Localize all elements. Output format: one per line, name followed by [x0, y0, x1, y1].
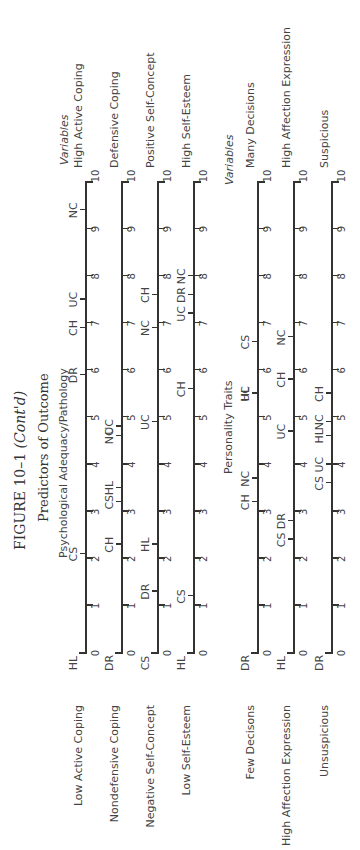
variables-header-1: Variables: [58, 115, 71, 165]
scale-tick-label: 9: [298, 226, 309, 232]
scale-tick-label: 1: [90, 603, 101, 609]
scale-tick-label: 2: [126, 556, 137, 562]
data-point-mark: [80, 553, 86, 555]
scale-tick-label: 10: [126, 170, 137, 183]
scale-end-cap: [187, 652, 195, 654]
data-point-code: HL: [239, 387, 252, 401]
data-point-mark: [326, 463, 332, 465]
scale-tick-label: 8: [336, 273, 347, 279]
scale-left-label: Unsuspicious: [318, 705, 331, 777]
data-point-mark: [288, 378, 294, 380]
scale-tick-label: 1: [336, 603, 347, 609]
data-point-mark: [80, 298, 86, 300]
scale-tick-label: 3: [126, 509, 137, 515]
figure-canvas: FIGURE 10–1 (Cont'd) Predictors of Outco…: [0, 0, 360, 850]
data-point-mark: [116, 543, 122, 545]
scale-tick-label: 4: [126, 461, 137, 467]
data-point-code: DR: [239, 655, 252, 671]
scale-tick-label: 7: [298, 320, 309, 326]
scale-tick-label: 10: [198, 170, 209, 183]
scale-tick-label: 2: [298, 556, 309, 562]
data-point-code: DR: [275, 513, 288, 529]
scale-axis-line: [257, 182, 259, 653]
data-point-code: NC: [175, 268, 188, 284]
data-point-code: NC: [313, 414, 326, 430]
scale-right-label: Many Decisions: [244, 82, 257, 168]
scale-left-label: Nondefensive Coping: [108, 705, 121, 822]
scale-tick-label: 1: [298, 603, 309, 609]
variables-header-2: Variables: [223, 135, 236, 185]
scale-tick-label: 6: [126, 367, 137, 373]
scale-tick-label: 1: [162, 603, 173, 609]
scale-axis-line: [331, 182, 333, 653]
scale-right-label: High Affection Expression: [280, 27, 293, 168]
data-point-code: NC: [239, 471, 252, 487]
data-point-code: NC: [139, 320, 152, 336]
data-point-code: UC: [103, 419, 116, 435]
data-point-code: CS: [275, 533, 288, 548]
scale-tick-label: 6: [262, 367, 273, 373]
scale-tick-label: 4: [336, 461, 347, 467]
data-point-mark: [152, 590, 158, 592]
scale-left-label: High Affection Expression: [280, 705, 293, 846]
scale-end-cap: [115, 652, 123, 654]
data-point-mark: [326, 421, 332, 423]
data-point-code: UC: [275, 424, 288, 440]
scale-tick-label: 9: [262, 226, 273, 232]
scale-tick-label: 8: [262, 273, 273, 279]
scale-tick-label: 0: [126, 650, 137, 656]
scale-tick-label: 2: [262, 556, 273, 562]
scale-tick-label: 5: [298, 414, 309, 420]
scale-tick-label: 7: [198, 320, 209, 326]
scale-tick-label: 5: [336, 414, 347, 420]
scale-tick-label: 8: [298, 273, 309, 279]
scale-tick-label: 9: [90, 226, 101, 232]
scale-axis-line: [157, 182, 159, 653]
scale-tick-label: 8: [90, 273, 101, 279]
scale-tick-label: 10: [336, 170, 347, 183]
scale-right-label: High Self-Esteem: [180, 74, 193, 168]
scale-tick-label: 4: [90, 461, 101, 467]
scale-tick-label: 6: [162, 367, 173, 373]
data-point-code: CH: [139, 287, 152, 303]
data-point-code: CS: [67, 547, 80, 562]
scale-tick-label: 7: [262, 320, 273, 326]
scale-tick-label: 7: [126, 320, 137, 326]
scale-tick-label: 9: [198, 226, 209, 232]
scale-tick-label: 0: [198, 650, 209, 656]
scale-right-label: High Active Coping: [72, 63, 85, 168]
figure-title-main: FIGURE 10–1: [12, 453, 28, 550]
data-point-mark: [288, 538, 294, 540]
data-point-mark: [116, 501, 122, 503]
scale-axis-line: [85, 182, 87, 653]
scale-tick-label: 2: [90, 556, 101, 562]
scale-left-label: Low Active Coping: [72, 705, 85, 806]
data-point-mark: [188, 275, 194, 277]
data-point-mark: [80, 209, 86, 211]
data-point-mark: [80, 374, 86, 376]
scale-tick-label: 0: [336, 650, 347, 656]
scale-left-label: Negative Self-Concept: [144, 705, 157, 827]
data-point-code: HL: [139, 537, 152, 551]
scale-tick-label: 3: [198, 509, 209, 515]
section-title-psych: Psychological Adequacy/Pathology: [57, 368, 70, 558]
scale-tick-label: 1: [262, 603, 273, 609]
data-point-code: UC: [67, 292, 80, 308]
scale-tick-label: 0: [262, 650, 273, 656]
scale-right-label: Defensive Coping: [108, 71, 121, 168]
data-point-code: CS: [175, 589, 188, 604]
scale-tick-label: 5: [126, 414, 137, 420]
scale-tick-label: 0: [162, 650, 173, 656]
scale-tick-label: 3: [90, 509, 101, 515]
data-point-code: CH: [67, 320, 80, 336]
scale-left-label: Few Decisons: [244, 705, 257, 780]
scale-tick-label: 1: [126, 603, 137, 609]
data-point-code: DR: [139, 584, 152, 600]
scale-tick-label: 10: [162, 170, 173, 183]
scale-tick-label: 3: [162, 509, 173, 515]
data-point-code: HL: [313, 429, 326, 443]
data-point-mark: [326, 482, 332, 484]
data-point-mark: [252, 392, 258, 394]
data-point-mark: [188, 312, 194, 314]
scale-tick-label: 9: [126, 226, 137, 232]
